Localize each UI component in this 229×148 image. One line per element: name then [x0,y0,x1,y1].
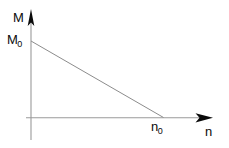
x-axis-label: n [205,125,212,138]
plot-svg [0,0,229,148]
figure-container: M M0 n0 n [0,0,229,148]
x-intercept-subscript: 0 [158,126,163,136]
y-intercept-subscript: 0 [17,39,22,49]
x-intercept-label: n0 [151,120,163,133]
y-axis-label: M [13,11,24,24]
magnetization-line [31,41,164,118]
y-intercept-label: M0 [7,33,23,46]
